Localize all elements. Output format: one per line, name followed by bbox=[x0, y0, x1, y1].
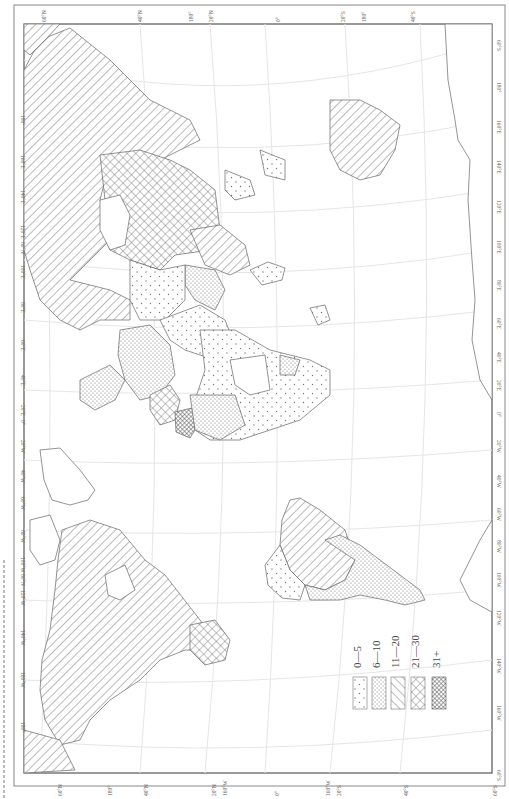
right-label: 140°W bbox=[496, 658, 502, 674]
legend-label: 0—5 bbox=[351, 646, 363, 669]
top-label: 20°S bbox=[340, 11, 346, 22]
bottom-label: 20°N bbox=[211, 784, 217, 796]
left-label: 100°W bbox=[20, 557, 26, 573]
left-label: 60°E bbox=[20, 340, 26, 352]
bottom-label: 40°S bbox=[403, 785, 409, 796]
left-label: 80°N bbox=[20, 574, 26, 586]
right-label: 0° bbox=[496, 412, 502, 417]
legend-label: 6—10 bbox=[370, 640, 382, 668]
right-label: 80°W bbox=[496, 540, 502, 554]
right-label: 60°W bbox=[496, 508, 502, 522]
right-label: 20°W bbox=[496, 440, 502, 454]
left-label: 120°W bbox=[20, 590, 26, 606]
legend-swatch-dark-dense bbox=[432, 677, 446, 709]
right-label: 60°S bbox=[496, 40, 502, 51]
left-label: 20°W bbox=[20, 440, 26, 454]
left-label: 80°W bbox=[20, 530, 26, 544]
legend-label: 11—20 bbox=[389, 635, 401, 668]
right-label: 60°S bbox=[496, 770, 502, 781]
bottom-label: 160°W bbox=[222, 780, 228, 796]
left-label: 60°W bbox=[20, 497, 26, 511]
legend-swatch-cross-hatch bbox=[411, 677, 425, 709]
bottom-label: 180° bbox=[107, 786, 113, 796]
right-label: 120°E bbox=[496, 200, 502, 214]
right-label: 60°E bbox=[496, 318, 502, 330]
legend-item-0-5 bbox=[353, 677, 367, 709]
top-label: 40°S bbox=[410, 11, 416, 22]
bottom-label: 60°N bbox=[57, 784, 63, 796]
right-label: 140°E bbox=[496, 160, 502, 174]
top-label: 0° bbox=[275, 17, 281, 22]
left-label: 100°E bbox=[20, 265, 26, 279]
left-label: 140°E bbox=[20, 190, 26, 204]
top-label: 40°N bbox=[137, 10, 143, 22]
bottom-label: 60°S bbox=[492, 785, 498, 796]
left-label: 120°E bbox=[20, 225, 26, 239]
left-label: 40°W bbox=[20, 470, 26, 484]
right-label: 40°E bbox=[496, 352, 502, 364]
right-label: 20°E bbox=[496, 380, 502, 392]
top-label: 60°N bbox=[41, 10, 47, 22]
left-label: 160°W bbox=[20, 672, 26, 688]
left-label: 80°E bbox=[20, 302, 26, 314]
left-label: 140°W bbox=[20, 630, 26, 646]
right-label: 180° bbox=[496, 82, 502, 92]
right-label: 80°E bbox=[496, 280, 502, 292]
top-label: 180° bbox=[188, 12, 194, 22]
bottom-label: 20°S bbox=[336, 785, 342, 796]
legend-swatch-sparse-dots bbox=[353, 677, 367, 709]
map-svg: 0—5 6—10 11—20 21—30 31+ 60°N 40°N 180° … bbox=[0, 0, 509, 799]
legend-swatch-diagonal-hatch bbox=[391, 677, 405, 709]
bottom-label: 0° bbox=[274, 791, 280, 796]
right-label: 40°W bbox=[496, 475, 502, 489]
right-label: 160°W bbox=[496, 705, 502, 721]
right-label: 100°E bbox=[496, 240, 502, 254]
right-label: 100°W bbox=[496, 572, 502, 588]
left-label: 20°E bbox=[20, 405, 26, 417]
left-label: 180° bbox=[20, 722, 26, 732]
bottom-label: 160°W bbox=[325, 780, 331, 796]
left-label: 80°N bbox=[20, 242, 26, 254]
legend-item-31-plus bbox=[432, 677, 446, 709]
legend-swatch-dense-dots bbox=[372, 677, 386, 709]
left-label: 0° bbox=[20, 420, 26, 425]
legend-item-21-30 bbox=[411, 677, 425, 709]
legend-item-6-10 bbox=[372, 677, 386, 709]
top-label: 180° bbox=[361, 12, 367, 22]
legend-label: 31+ bbox=[430, 651, 442, 668]
left-label: 180° bbox=[20, 115, 26, 125]
legend-label: 21—30 bbox=[409, 635, 421, 669]
legend-item-11-20 bbox=[391, 677, 405, 709]
left-label: 40°E bbox=[20, 375, 26, 387]
top-label: 20°N bbox=[208, 10, 214, 22]
left-label: 160°E bbox=[20, 155, 26, 169]
bottom-label: 40°N bbox=[143, 784, 149, 796]
right-label: 160°E bbox=[496, 120, 502, 134]
map-figure: 0—5 6—10 11—20 21—30 31+ 60°N 40°N 180° … bbox=[0, 0, 509, 799]
right-label: 120°W bbox=[496, 610, 502, 626]
